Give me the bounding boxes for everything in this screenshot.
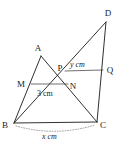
- point-label-D: D: [105, 8, 112, 18]
- point-label-N: N: [70, 81, 77, 91]
- geometry-figure: A B C D P Q M N y cm 3 cm x cm: [0, 0, 120, 141]
- segment-BC: [14, 122, 97, 123]
- measure-label-bc: x cm: [41, 132, 57, 141]
- point-label-P: P: [57, 63, 62, 73]
- point-label-A: A: [35, 43, 42, 53]
- point-label-M: M: [17, 79, 25, 89]
- point-label-Q: Q: [107, 65, 114, 75]
- point-label-C: C: [100, 120, 106, 130]
- bc-dimension-arc: [16, 125, 95, 131]
- geometry-canvas: A B C D P Q M N y cm 3 cm x cm: [0, 0, 120, 141]
- measure-label-mn: 3 cm: [37, 89, 54, 98]
- point-label-B: B: [2, 120, 8, 130]
- measure-label-pq: y cm: [69, 60, 85, 69]
- segment-DC: [97, 22, 106, 122]
- segment-PQ: [65, 70, 103, 71]
